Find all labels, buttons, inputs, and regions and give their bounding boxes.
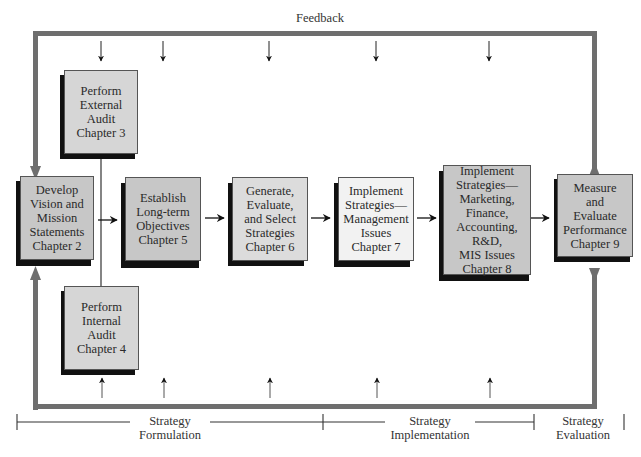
phase-timeline bbox=[17, 414, 624, 430]
box-long-term-objectives: Establish Long-term Objectives Chapter 5 bbox=[125, 177, 201, 261]
phase-strategy-formulation: Strategy Formulation bbox=[130, 414, 210, 442]
phase-strategy-evaluation: Strategy Evaluation bbox=[548, 414, 618, 442]
box-measure-evaluate: Measure and Evaluate Performance Chapter… bbox=[557, 174, 633, 257]
box-vision-mission: Develop Vision and Mission Statements Ch… bbox=[20, 176, 94, 260]
box-internal-audit: Perform Internal Audit Chapter 4 bbox=[64, 286, 139, 370]
box-external-audit: Perform External Audit Chapter 3 bbox=[64, 70, 138, 154]
phase-strategy-implementation: Strategy Implementation bbox=[385, 414, 475, 442]
feedback-arrow-up-left bbox=[30, 266, 41, 280]
box-implement-marketing: Implement Strategies— Marketing, Finance… bbox=[443, 165, 531, 275]
box-implement-management: Implement Strategies— Management Issues … bbox=[338, 177, 414, 261]
top-input-arrows bbox=[101, 41, 489, 61]
bottom-input-arrows bbox=[102, 378, 490, 398]
feedback-arrow-down-right bbox=[589, 268, 600, 282]
box-select-strategies: Generate, Evaluate, and Select Strategie… bbox=[232, 177, 308, 261]
connector-layer bbox=[0, 0, 641, 457]
